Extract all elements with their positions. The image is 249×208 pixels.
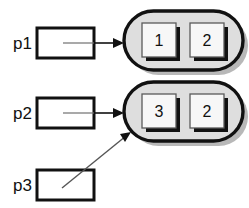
node2-cell-0: 3	[142, 94, 180, 132]
node-node2: 3 2	[124, 82, 248, 146]
pointer-p1: p1	[13, 28, 124, 58]
pointer-p1-label: p1	[13, 34, 32, 53]
node2-cell-0-value: 3	[155, 103, 164, 120]
pointer-p2: p2	[13, 98, 124, 128]
node1-cell-1: 2	[190, 23, 228, 61]
edge-p3-node2-arrowhead	[120, 132, 131, 142]
node1-cell-0-value: 1	[155, 32, 164, 49]
node1-cell-1-value: 2	[203, 32, 212, 49]
node2-cell-1-value: 2	[203, 103, 212, 120]
edge-p2-node2-arrowhead	[113, 108, 124, 118]
node1-cell-0: 1	[142, 23, 180, 61]
node2-cell-1: 2	[190, 94, 228, 132]
pointer-p3: p3	[13, 132, 131, 200]
pointer-p3-label: p3	[13, 176, 32, 195]
diagram-canvas: 1 2 3 2 p1	[0, 0, 249, 208]
pointer-p2-label: p2	[13, 104, 32, 123]
node-node1: 1 2	[124, 11, 248, 75]
pointer-diagram: 1 2 3 2 p1	[0, 0, 249, 208]
